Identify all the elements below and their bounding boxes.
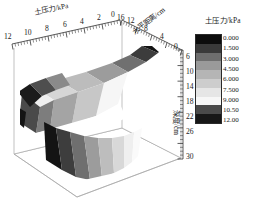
axis-tick xyxy=(90,27,91,30)
axis-tick xyxy=(42,37,43,40)
legend-label-1: 1.500 xyxy=(223,45,239,52)
legend-band-5 xyxy=(196,79,221,88)
axis-tick xyxy=(21,42,22,45)
axis-tick xyxy=(57,34,58,37)
axis-topright-tick-3: 4 xyxy=(160,33,164,41)
axis-tick xyxy=(75,30,76,33)
legend-band-2 xyxy=(196,53,221,62)
axis-tick xyxy=(27,41,28,44)
axis-tick xyxy=(39,38,40,41)
axis-tick xyxy=(36,39,37,42)
axis-topright-tick-4: 0 xyxy=(174,43,178,51)
axis-left-tick-5: 2 xyxy=(97,14,101,22)
legend-label-4: 6.000 xyxy=(223,76,239,83)
axis-tick xyxy=(33,39,34,42)
legend-label-6: 9.000 xyxy=(223,97,239,104)
axis-left-tick-3: 6 xyxy=(63,21,67,29)
axis-tick xyxy=(18,43,19,46)
axis-tick xyxy=(51,35,52,38)
axis-tick xyxy=(12,44,13,50)
axis-topright-tick-2: 8 xyxy=(144,25,148,33)
legend-band-6 xyxy=(196,88,221,97)
legend-labels: 0.0001.5003.0004.5006.0007.5009.00010.50… xyxy=(223,31,253,126)
legend-band-0 xyxy=(196,35,221,44)
axis-left-tick-4: 4 xyxy=(80,18,84,26)
axis-tick xyxy=(45,37,46,40)
axis-depth-tick-5: 26 xyxy=(186,128,194,136)
axis-tick xyxy=(54,35,55,38)
axis-tick xyxy=(87,27,88,30)
axis-tick xyxy=(69,31,70,34)
legend-label-8: 12.00 xyxy=(223,117,239,124)
axis-tick xyxy=(60,33,61,36)
legend-band-9 xyxy=(196,114,221,123)
legend-band-3 xyxy=(196,61,221,70)
axis-left-tick-0: 12 xyxy=(4,33,12,41)
axis-left-tick-2: 8 xyxy=(45,25,49,33)
axis-tick xyxy=(81,29,82,32)
axis-topright-tick-1: 12 xyxy=(127,17,135,25)
legend-band-1 xyxy=(196,44,221,53)
axis-left-tick-1: 10 xyxy=(24,29,32,37)
legend-band-4 xyxy=(196,70,221,79)
legend: 土压力/kPa 0.0001.5003.0004.5006.0007.5009.… xyxy=(188,14,254,129)
axis-tick xyxy=(63,33,64,36)
axis-topright-tick-0: 16 xyxy=(117,14,125,22)
legend-title: 土压力/kPa xyxy=(191,14,254,25)
axis-tick xyxy=(72,31,73,34)
figure-3d-soil-pressure-plot: 土压力/kPa 12 10 8 6 4 2 0 水平距离/cm 16 12 8 … xyxy=(0,0,254,211)
axis-tick xyxy=(78,29,79,32)
axis-tick xyxy=(105,23,106,26)
axis-tick xyxy=(93,26,94,29)
axis-depth-tick-6: 30 xyxy=(186,153,194,161)
legend-colorbar xyxy=(195,34,222,124)
band-7500-9000-lower xyxy=(112,136,124,173)
axis-tick xyxy=(15,43,16,46)
axis-tick xyxy=(99,25,100,28)
legend-label-0: 0.000 xyxy=(223,35,239,42)
legend-band-8 xyxy=(196,105,221,114)
legend-label-7: 10.50 xyxy=(223,107,239,114)
legend-band-7 xyxy=(196,97,221,106)
axis-left-tick-6: 0 xyxy=(111,11,115,19)
axis-depth-title: 深度/cm xyxy=(173,110,180,135)
legend-label-5: 7.500 xyxy=(223,87,239,94)
axis-tick xyxy=(96,25,97,28)
axis-tick xyxy=(24,41,25,44)
legend-label-2: 3.000 xyxy=(223,56,239,63)
legend-label-3: 4.500 xyxy=(223,66,239,73)
